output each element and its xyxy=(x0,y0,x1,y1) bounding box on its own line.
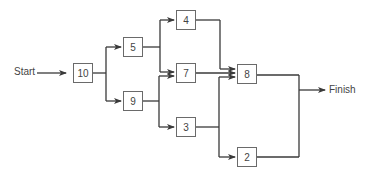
node-5[interactable]: 5 xyxy=(123,37,143,57)
node-7[interactable]: 7 xyxy=(176,63,196,83)
node-2[interactable]: 2 xyxy=(237,147,257,167)
node-10[interactable]: 10 xyxy=(73,63,93,83)
finish-label: Finish xyxy=(329,84,356,95)
start-label: Start xyxy=(14,66,35,77)
node-8[interactable]: 8 xyxy=(237,64,257,84)
node-4[interactable]: 4 xyxy=(176,10,196,30)
node-3[interactable]: 3 xyxy=(176,117,196,137)
node-9[interactable]: 9 xyxy=(123,91,143,111)
